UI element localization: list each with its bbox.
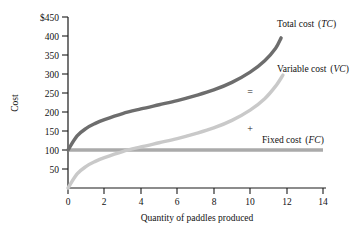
y-axis-tick-labels: $450 400 350 300 250 200 150 100 50 bbox=[40, 13, 59, 175]
plus-sign-annotation: + bbox=[247, 123, 253, 134]
variable-cost-label-text: Variable cost bbox=[277, 64, 327, 74]
y-tick-label-250: 250 bbox=[45, 89, 60, 99]
x-tick-label-2: 2 bbox=[102, 197, 107, 207]
x-axis-tick-labels: 0 2 4 6 8 10 12 14 bbox=[66, 197, 328, 207]
x-tick-label-0: 0 bbox=[66, 197, 71, 207]
axes bbox=[68, 17, 326, 188]
y-tick-label-50: 50 bbox=[50, 165, 60, 175]
total-cost-label-paren-close: ) bbox=[333, 19, 336, 30]
x-axis-title: Quantity of paddles produced bbox=[141, 213, 254, 223]
x-tick-label-6: 6 bbox=[175, 197, 180, 207]
y-tick-label-150: 150 bbox=[45, 127, 60, 137]
y-axis-ticks bbox=[62, 17, 68, 169]
total-cost-label-text: Total cost bbox=[277, 19, 314, 29]
fixed-cost-label-text: Fixed cost bbox=[262, 135, 302, 145]
series-labels: Total cost (TC) Variable cost (VC) Fixed… bbox=[262, 13, 349, 146]
x-axis-ticks bbox=[68, 188, 323, 194]
total-cost-label-abbrev: TC bbox=[321, 19, 333, 29]
y-tick-label-300: 300 bbox=[45, 70, 60, 80]
x-tick-label-10: 10 bbox=[245, 197, 255, 207]
cost-curves-chart: $450 400 350 300 250 200 150 100 50 0 2 … bbox=[0, 0, 360, 233]
fixed-cost-label-paren-close: ) bbox=[321, 135, 324, 146]
x-tick-label-14: 14 bbox=[318, 197, 328, 207]
y-tick-label-100: 100 bbox=[45, 146, 60, 156]
y-axis-title: Cost bbox=[10, 94, 20, 112]
fixed-cost-label-abbrev: FC bbox=[308, 135, 322, 145]
y-tick-label-200: 200 bbox=[45, 108, 60, 118]
variable-cost-label-paren-close: ) bbox=[346, 64, 349, 75]
equals-sign-annotation: = bbox=[247, 86, 253, 97]
x-tick-label-12: 12 bbox=[282, 197, 292, 207]
y-tick-label-350: 350 bbox=[45, 51, 60, 61]
chart-svg: $450 400 350 300 250 200 150 100 50 0 2 … bbox=[0, 0, 360, 233]
variable-cost-label: Variable cost (VC) bbox=[277, 58, 349, 75]
y-tick-label-450: $450 bbox=[40, 13, 59, 23]
fixed-cost-label: Fixed cost (FC) bbox=[262, 129, 324, 146]
total-cost-label: Total cost (TC) bbox=[277, 13, 336, 30]
x-tick-label-4: 4 bbox=[139, 197, 144, 207]
variable-cost-label-abbrev: VC bbox=[334, 64, 347, 74]
y-tick-label-400: 400 bbox=[45, 32, 60, 42]
data-series bbox=[68, 38, 323, 188]
x-tick-label-8: 8 bbox=[212, 197, 217, 207]
